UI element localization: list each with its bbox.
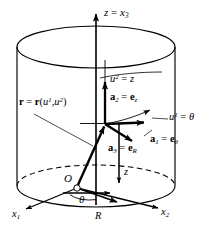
label-a3-esub: R [133, 147, 137, 154]
label-r-equals: = [24, 96, 35, 107]
label-u1-equals: = [178, 111, 189, 122]
label-x1-sub: 1 [17, 213, 20, 220]
label-vertical-axis-equals: = [108, 6, 120, 18]
label-radius-R: R [95, 211, 101, 222]
label-axis-x2: x2 [161, 207, 169, 219]
position-vector-leader [34, 114, 93, 146]
label-r-close: ) [63, 96, 67, 107]
label-coord-curve-u1: u1 = θ [169, 112, 194, 123]
cylindrical-coordinates-figure: z = x3 u2 = z a2 = ez r = r(u1,u2) u1 = … [0, 0, 203, 231]
label-x2-sub: 2 [166, 211, 169, 218]
label-vertical-axis-sub: 3 [125, 12, 129, 20]
label-basis-a2: a2 = ez [110, 92, 137, 104]
label-origin: O [64, 173, 72, 184]
x2-axis-arrow [77, 188, 158, 208]
label-angle-theta: θ [79, 194, 84, 205]
label-a1-esub: θ [175, 138, 178, 145]
label-a2-esub: z [135, 96, 138, 103]
label-axis-x1: x1 [12, 209, 20, 221]
label-basis-a1: a1 = eθ [150, 134, 178, 146]
label-u2-equals: = [119, 73, 130, 84]
origin-marker-circle [74, 185, 80, 191]
label-position-vector: r = r(u1,u2) [19, 97, 67, 108]
label-u1-value: θ [189, 111, 194, 122]
label-basis-a3: a3 = eR [108, 143, 137, 155]
label-coord-curve-u2: u2 = z [110, 74, 134, 85]
position-vector-arrow [77, 127, 104, 188]
base-axes-group [26, 185, 158, 209]
label-height-z: z [124, 167, 128, 178]
label-a2-equals: = [119, 91, 130, 102]
label-a1-equals: = [159, 133, 170, 144]
coord-curve-u1-group [80, 110, 168, 124]
r-label-leader-line [34, 114, 93, 146]
label-a3-equals: = [117, 142, 128, 153]
label-u2-value: z [130, 73, 134, 84]
position-vector-group [77, 127, 104, 188]
coord-curve-u1-leader [152, 118, 168, 119]
label-vertical-axis: z = x3 [104, 7, 129, 20]
